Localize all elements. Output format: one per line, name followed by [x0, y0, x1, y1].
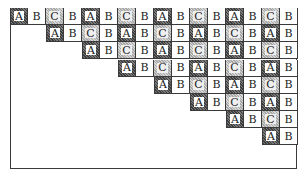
- grid-cell-c: C: [226, 25, 244, 42]
- cell-letter: B: [136, 42, 153, 58]
- grid-cell-b: B: [280, 8, 298, 25]
- cell-letter: C: [157, 63, 168, 73]
- grid-cell-c: C: [190, 8, 208, 25]
- cell-letter: B: [172, 42, 189, 58]
- grid-cell-b: B: [100, 42, 118, 59]
- cell-letter: A: [158, 80, 168, 90]
- cell-letter: B: [280, 77, 297, 93]
- grid-cell-a: A: [82, 8, 100, 25]
- cell-letter: C: [193, 45, 204, 55]
- grid-cell-b: B: [136, 25, 154, 42]
- cell-letter: A: [50, 28, 60, 38]
- cell-letter: A: [229, 45, 240, 55]
- cell-letter: C: [229, 28, 240, 38]
- cell-letter: A: [194, 97, 204, 107]
- cell-letter: B: [280, 25, 297, 41]
- grid-cell-c: C: [226, 94, 244, 111]
- cell-letter: B: [208, 60, 225, 76]
- grid-cell-b: B: [244, 111, 262, 128]
- cell-letter: B: [244, 77, 261, 93]
- cell-letter: C: [85, 28, 96, 38]
- grid-cell-c: C: [226, 60, 244, 77]
- cell-letter: B: [172, 77, 189, 93]
- grid-cell-c: C: [262, 42, 280, 59]
- grid-cell-b: B: [172, 25, 190, 42]
- cell-letter: B: [244, 111, 261, 127]
- cell-letter: B: [136, 25, 153, 41]
- grid-cell-b: B: [244, 25, 262, 42]
- grid-cell-c: C: [118, 42, 136, 59]
- diagram-frame: ABCBABCBABCBABCBABCBABCBABCBABABCBABCBAB…: [10, 8, 297, 169]
- grid-cell-b: B: [208, 60, 226, 77]
- grid-cell-b: B: [244, 8, 262, 25]
- cell-letter: B: [172, 25, 189, 41]
- cell-letter: A: [229, 80, 240, 90]
- cell-letter: B: [280, 8, 297, 24]
- grid-cell-b: B: [280, 42, 298, 59]
- cell-letter: A: [86, 45, 96, 55]
- grid-row: ABCBAB: [190, 94, 298, 111]
- grid-cell-a: A: [226, 111, 244, 128]
- cell-letter: A: [121, 28, 132, 38]
- grid-cell-a: A: [154, 8, 172, 25]
- cell-letter: B: [64, 8, 81, 24]
- grid-cell-b: B: [64, 25, 82, 42]
- grid-cell-b: B: [172, 8, 190, 25]
- grid-cell-b: B: [208, 25, 226, 42]
- grid-row: ABCBABCBABCBAB: [46, 25, 298, 42]
- grid-cell-b: B: [208, 42, 226, 59]
- grid-cell-a: A: [118, 60, 136, 77]
- grid-row: AB: [262, 128, 298, 145]
- cell-letter: B: [208, 77, 225, 93]
- grid-cell-c: C: [46, 8, 64, 25]
- grid-cell-b: B: [64, 8, 82, 25]
- cell-letter: C: [265, 80, 276, 90]
- grid-cell-b: B: [244, 60, 262, 77]
- grid-cell-a: A: [10, 8, 28, 25]
- cell-letter: A: [157, 45, 168, 55]
- cell-letter: B: [172, 8, 189, 24]
- grid-cell-b: B: [100, 8, 118, 25]
- grid-cell-b: B: [100, 25, 118, 42]
- grid-cell-a: A: [262, 25, 280, 42]
- cell-letter: B: [28, 8, 45, 24]
- cell-letter: A: [14, 11, 24, 21]
- grid-cell-b: B: [136, 42, 154, 59]
- cell-letter: B: [244, 8, 261, 24]
- grid-cell-b: B: [172, 42, 190, 59]
- cell-letter: C: [193, 11, 204, 21]
- grid-cell-c: C: [154, 60, 172, 77]
- cell-letter: A: [193, 28, 204, 38]
- grid-cell-c: C: [154, 25, 172, 42]
- grid-cell-a: A: [262, 128, 280, 145]
- grid-cell-a: A: [190, 25, 208, 42]
- grid-cell-c: C: [262, 111, 280, 128]
- grid-cell-a: A: [118, 25, 136, 42]
- cell-letter: C: [121, 11, 132, 21]
- grid-cell-a: A: [226, 42, 244, 59]
- grid-row: ABCBABCBAB: [118, 60, 298, 77]
- cell-letter: B: [244, 94, 261, 110]
- grid-cell-b: B: [280, 25, 298, 42]
- grid-cell-b: B: [136, 8, 154, 25]
- grid-cell-b: B: [244, 42, 262, 59]
- grid-row: ABCBABCBABCB: [82, 42, 298, 59]
- grid-row: ABCBABCB: [154, 77, 298, 94]
- cell-letter: B: [244, 60, 261, 76]
- grid-cell-b: B: [28, 8, 46, 25]
- grid-cell-b: B: [280, 77, 298, 94]
- grid-cell-b: B: [172, 60, 190, 77]
- grid-cell-b: B: [280, 60, 298, 77]
- cell-letter: B: [100, 42, 117, 58]
- cell-letter: B: [244, 42, 261, 58]
- grid-cell-a: A: [190, 60, 208, 77]
- cell-letter: B: [100, 25, 117, 41]
- grid-cell-c: C: [190, 77, 208, 94]
- cell-letter: A: [85, 11, 96, 21]
- grid-cell-b: B: [136, 60, 154, 77]
- cell-letter: C: [265, 114, 276, 124]
- cell-letter: C: [157, 28, 168, 38]
- grid-row: ABCBABCBABCBABCB: [10, 8, 298, 25]
- grid-cell-b: B: [280, 111, 298, 128]
- cell-letter: B: [208, 8, 225, 24]
